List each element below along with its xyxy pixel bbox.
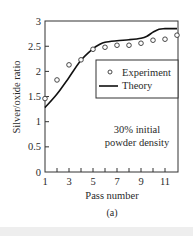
chart-caption: (a) xyxy=(106,207,117,219)
experiment-point xyxy=(43,96,48,101)
y-tick-label: 1.5 xyxy=(28,91,41,102)
experiment-point xyxy=(163,37,168,42)
experiment-point xyxy=(55,78,60,83)
x-axis-label: Pass number xyxy=(85,190,139,201)
experiment-point xyxy=(103,45,108,50)
experiment-point xyxy=(175,33,180,38)
x-tick-label: 1 xyxy=(42,176,47,187)
experiment-point xyxy=(67,63,72,68)
annotation-line-2: powder density xyxy=(105,137,170,148)
x-tick-label: 7 xyxy=(114,176,119,187)
experiment-point xyxy=(91,47,96,52)
silver-oxide-chart: 00.511.522.53 1357911 Experiment Theory … xyxy=(0,0,193,227)
experiment-point xyxy=(139,41,144,46)
legend-experiment-label: Experiment xyxy=(122,67,171,78)
legend-box xyxy=(96,60,178,98)
x-tick-label: 5 xyxy=(90,176,95,187)
legend-theory-label: Theory xyxy=(122,80,153,91)
x-axis: 1357911 xyxy=(42,168,170,187)
experiment-point xyxy=(151,38,156,43)
y-tick-label: 3 xyxy=(36,16,41,27)
y-tick-label: 2.5 xyxy=(28,41,41,52)
x-tick-label: 3 xyxy=(66,176,71,187)
legend: Experiment Theory xyxy=(96,60,178,98)
experiment-point xyxy=(79,58,84,63)
y-tick-label: 1 xyxy=(36,116,41,127)
y-axis-label: Silver/oxide ratio xyxy=(11,60,22,133)
bottom-band xyxy=(0,227,193,236)
experiment-point xyxy=(127,43,132,48)
x-tick-label: 9 xyxy=(138,176,143,187)
y-tick-label: 0.5 xyxy=(28,141,41,152)
y-tick-label: 0 xyxy=(36,167,41,178)
annotation-line-1: 30% initial xyxy=(114,124,160,135)
x-tick-label: 11 xyxy=(160,176,170,187)
y-tick-label: 2 xyxy=(36,66,41,77)
experiment-point xyxy=(115,43,120,48)
